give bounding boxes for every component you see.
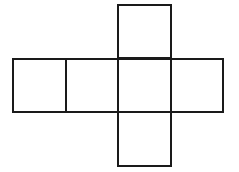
net-square-left-outer [12,58,67,113]
net-square-right [170,58,224,113]
net-square-top [117,4,172,59]
cube-net-diagram [0,0,239,172]
net-square-center [117,58,172,113]
net-square-left-inner [65,58,119,113]
net-square-bottom [117,111,172,167]
